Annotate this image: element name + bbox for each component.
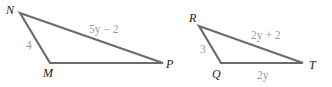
triangle-nmp: N M P 4 5y − 2 <box>5 3 174 80</box>
side-label-rt: 2y + 2 <box>251 29 281 42</box>
side-label-qt: 2y <box>257 69 269 82</box>
vertex-label-t: T <box>309 58 317 72</box>
vertex-label-m: M <box>42 66 54 80</box>
side-label-nm: 4 <box>26 39 32 51</box>
similar-triangles-figure: N M P 4 5y − 2 R Q T 3 2y + 2 2y <box>0 0 332 87</box>
vertex-label-p: P <box>165 57 174 71</box>
triangle-rqt: R Q T 3 2y + 2 2y <box>188 11 317 82</box>
side-label-rq: 3 <box>200 43 206 55</box>
vertex-label-q: Q <box>212 67 221 81</box>
triangle-nmp-outline <box>20 13 163 63</box>
vertex-label-r: R <box>188 11 197 25</box>
vertex-label-n: N <box>5 3 15 17</box>
side-label-np: 5y − 2 <box>89 23 119 36</box>
